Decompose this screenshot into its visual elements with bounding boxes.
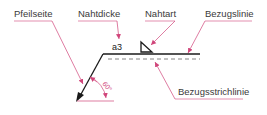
angle-arc-start [90,77,97,82]
arrow-head-icon [76,92,84,102]
label-nahtdicke: Nahtdicke [78,8,120,19]
label-nahtart: Nahtart [145,8,177,19]
label-pfeilseite: Pfeilseite [14,8,53,19]
weld-symbol-diagram: Pfeilseite Nahtdicke Nahtart Bezugslinie… [0,0,267,115]
angle-label: 60° [101,80,113,93]
arrow-line [80,54,103,96]
fillet-weld-triangle-icon [141,42,152,52]
label-bezugslinie: Bezugslinie [205,8,254,19]
angle-arc [90,77,106,98]
label-bezugsstrichlinie: Bezugsstrichlinie [178,86,249,97]
weld-thickness-value: a3 [112,42,122,52]
